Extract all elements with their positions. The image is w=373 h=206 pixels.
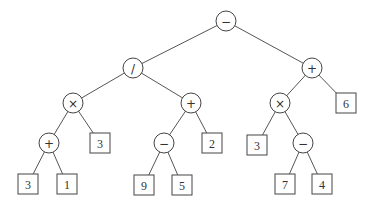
tree-nodes: −/+×+×6+3−23−319574 [18, 11, 356, 195]
operand-leaf-node: 1 [57, 174, 77, 194]
operand-label: 2 [209, 137, 215, 151]
operator-label: + [44, 137, 54, 151]
operand-leaf-node: 3 [247, 135, 267, 155]
operand-leaf-node: 2 [202, 133, 222, 153]
operand-leaf-node: 9 [134, 175, 154, 195]
operator-node-plus: + [302, 58, 322, 78]
tree-edge [226, 21, 312, 68]
operator-node-minus: − [216, 11, 236, 31]
operator-node-times: × [270, 93, 290, 113]
operator-node-minus: − [293, 133, 313, 153]
operand-label: 4 [319, 178, 325, 192]
operand-leaf-node: 7 [275, 174, 295, 194]
operand-leaf-node: 6 [336, 93, 356, 113]
operator-label: × [68, 97, 78, 111]
operator-label: − [221, 15, 231, 29]
operand-leaf-node: 4 [312, 174, 332, 194]
operator-label: − [159, 137, 169, 151]
operand-label: 3 [97, 137, 103, 151]
operator-node-plus: + [181, 93, 201, 113]
operand-leaf-node: 3 [18, 174, 38, 194]
operand-label: 5 [179, 179, 185, 193]
operator-node-divide: / [123, 58, 143, 78]
operator-label: × [275, 97, 285, 111]
operator-label: − [298, 137, 308, 151]
operator-node-times: × [63, 93, 83, 113]
operator-label: + [186, 97, 196, 111]
operator-label: + [307, 62, 317, 76]
tree-edge [133, 21, 226, 68]
operand-label: 3 [254, 139, 260, 153]
operator-node-plus: + [39, 133, 59, 153]
operand-label: 9 [141, 179, 147, 193]
operand-label: 7 [282, 178, 288, 192]
operator-node-minus: − [154, 133, 174, 153]
operand-label: 1 [64, 178, 70, 192]
operand-leaf-node: 5 [172, 175, 192, 195]
operand-leaf-node: 3 [90, 133, 110, 153]
operand-label: 6 [343, 97, 349, 111]
expression-tree-diagram: −/+×+×6+3−23−319574 [0, 0, 373, 206]
operand-label: 3 [25, 178, 31, 192]
